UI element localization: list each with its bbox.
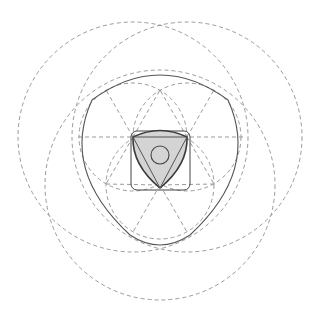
reuleaux-rotor (133, 131, 187, 189)
spoke (187, 90, 214, 137)
spoke (133, 185, 160, 232)
spoke (160, 184, 214, 185)
spoke (106, 137, 133, 184)
diagram-canvas (0, 0, 326, 321)
reuleaux-construction-diagram (0, 0, 326, 321)
spoke (160, 185, 187, 232)
spoke (106, 184, 160, 185)
spoke (187, 137, 214, 184)
spoke (106, 90, 133, 137)
